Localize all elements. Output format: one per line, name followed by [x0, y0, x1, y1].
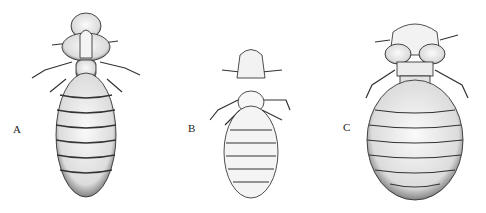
panel-label-a: A — [13, 123, 21, 135]
specimen-a — [32, 13, 140, 197]
specimen-b — [210, 50, 290, 199]
panel-label-c: C — [343, 121, 350, 133]
panel-label-b: B — [188, 122, 195, 134]
figure-illustration — [0, 0, 486, 213]
specimen-c — [366, 24, 468, 200]
